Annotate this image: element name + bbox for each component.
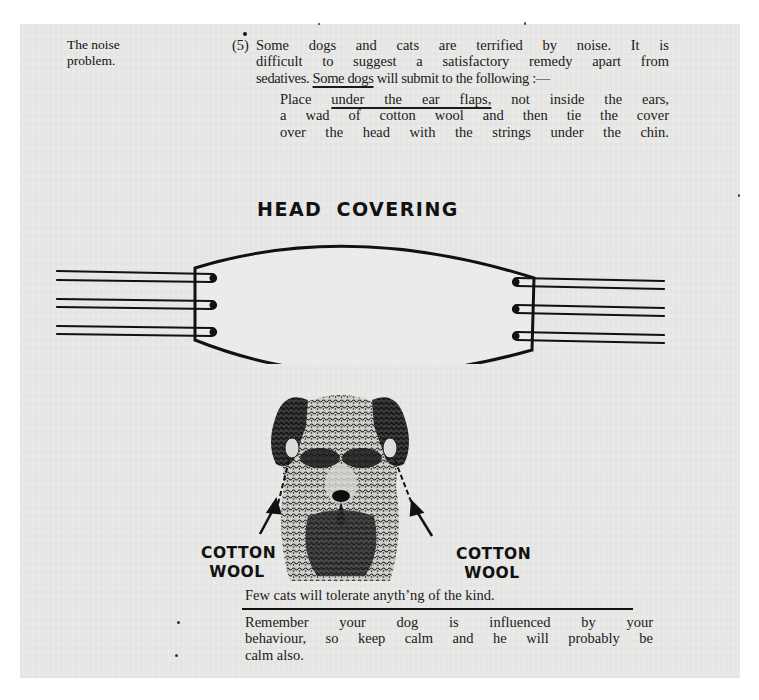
scan-speck: [177, 621, 180, 624]
instruction-text: Place: [280, 91, 331, 107]
scan-speck: [175, 654, 178, 657]
margin-heading: The noise problem.: [67, 37, 157, 69]
scan-speck: [738, 194, 740, 197]
closing-line: behaviour, so keep calm and he will prob…: [245, 630, 653, 646]
underlined-text: Some dogs: [313, 70, 374, 86]
instruction-text: not inside the ears,: [491, 91, 669, 107]
cotton-wool-left: [285, 438, 299, 458]
underlined-text: under the ear flaps,: [331, 91, 491, 107]
instruction-paragraph: Place under the ear flaps, not inside th…: [280, 91, 669, 140]
scanned-book-page: The noise problem. (5) Some dogs and cat…: [20, 24, 740, 678]
diagram-title: HEAD COVERING: [257, 198, 459, 220]
label-line: COTTON: [456, 545, 528, 564]
closing-line: Remember your dog is influenced by your: [245, 614, 653, 630]
label-line: WOOL: [456, 564, 528, 583]
head-covering-diagram: [50, 234, 670, 364]
label-line: WOOL: [201, 563, 273, 582]
intro-line: difficult to suggest a satisfactory reme…: [256, 53, 669, 69]
intro-line: Some dogs and cats are terrified by nois…: [256, 37, 669, 53]
ink-dot: [243, 32, 247, 36]
instruction-line: a wad of cotton wool and then tie the co…: [280, 107, 669, 123]
scan-speck: [524, 22, 526, 25]
cotton-wool-label-right: COTTON WOOL: [456, 545, 528, 583]
dog-nose: [332, 490, 350, 502]
instruction-line: Place under the ear flaps, not inside th…: [280, 91, 669, 107]
cotton-wool-right: [383, 438, 397, 458]
closing-paragraph: Remember your dog is influenced by your …: [245, 614, 653, 663]
margin-heading-line: problem.: [67, 53, 157, 69]
horizontal-rule: [242, 608, 633, 610]
label-line: COTTON: [201, 544, 273, 563]
cats-note: Few cats will tolerate anyth’ng of the k…: [245, 587, 495, 604]
intro-paragraph: Some dogs and cats are terrified by nois…: [256, 37, 669, 86]
intro-text: will submit to the following :—: [373, 70, 550, 86]
margin-heading-line: The noise: [67, 37, 157, 53]
intro-text: sedatives.: [256, 70, 313, 86]
paragraph-number: (5): [232, 37, 249, 54]
paragraph-number-text: (5): [232, 37, 249, 53]
intro-line: sedatives. Some dogs will submit to the …: [256, 70, 669, 86]
instruction-line: over the head with the strings under the…: [280, 124, 669, 140]
cotton-wool-label-left: COTTON WOOL: [201, 544, 273, 582]
closing-line: calm also.: [245, 647, 653, 663]
scan-speck: [318, 23, 320, 25]
